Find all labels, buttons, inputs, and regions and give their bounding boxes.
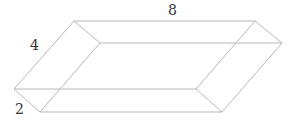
edge-top-left: [74, 21, 100, 43]
edge-left-back: [14, 21, 74, 89]
edge-left-front: [40, 43, 100, 112]
length-label: 8: [168, 2, 177, 18]
edge-top-right: [255, 21, 282, 43]
height-label: 2: [15, 101, 24, 117]
edge-bottom-right: [196, 89, 222, 112]
width-label: 4: [30, 37, 39, 53]
edge-right-front: [222, 43, 282, 112]
edge-right-back: [196, 21, 255, 89]
prism-diagram: 8 4 2: [0, 0, 298, 124]
